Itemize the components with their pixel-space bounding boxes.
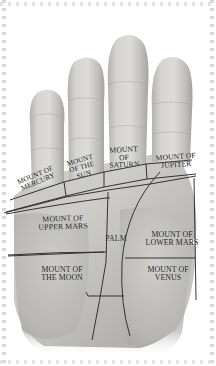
label-mount-of-the-moon: MOUNT OF THE MOON	[20, 266, 104, 282]
palmistry-diagram: MOUNT OF MERCURYMOUNT OF THE SUNMOUNT OF…	[0, 0, 216, 366]
label-mount-of-upper-mars: MOUNT OF UPPER MARS	[21, 214, 106, 233]
label-mount-of-lower-mars: MOUNT OF LOWER MARS	[131, 231, 213, 247]
label-palm: PALM	[100, 235, 132, 243]
label-mount-of-mercury: MOUNT OF MERCURY	[7, 161, 66, 197]
mount-labels-layer: MOUNT OF MERCURYMOUNT OF THE SUNMOUNT OF…	[0, 0, 216, 366]
label-mount-of-jupiter: MOUNT OF JUPITER	[143, 151, 210, 171]
label-mount-of-saturn: MOUNT OF SATURN	[101, 145, 146, 170]
label-mount-of-venus: MOUNT OF VENUS	[128, 266, 208, 282]
label-mount-of-the-sun: MOUNT OF THE SUN	[60, 152, 105, 184]
